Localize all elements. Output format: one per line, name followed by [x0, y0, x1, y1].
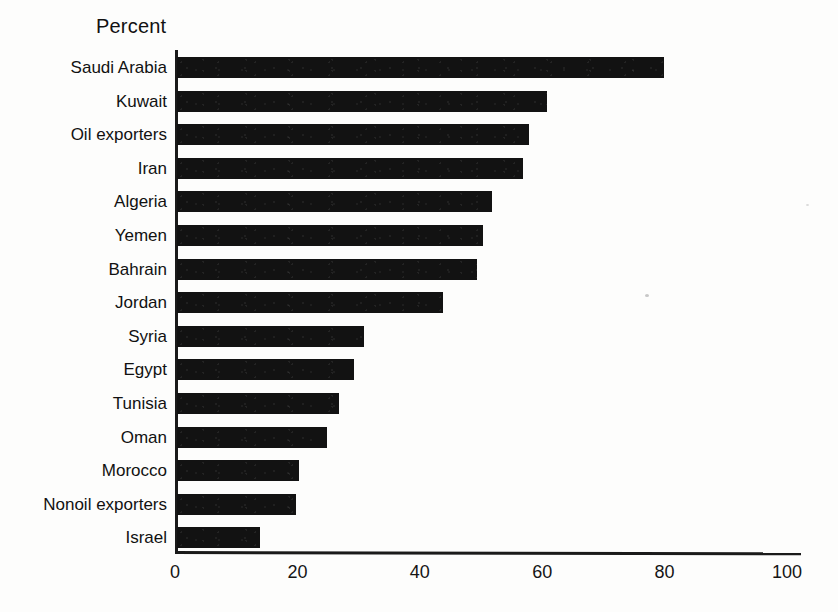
- category-label: Yemen: [115, 225, 167, 246]
- category-label: Oil exporters: [71, 124, 167, 145]
- category-label: Syria: [128, 326, 167, 347]
- x-tick-label-80: 80: [635, 561, 695, 583]
- chart-page: Percent Saudi ArabiaKuwaitOil exportersI…: [0, 0, 838, 612]
- bar-fill: [177, 527, 260, 548]
- bar-tunisia: [177, 393, 339, 414]
- bar-fill: [177, 494, 296, 515]
- bar-fill: [177, 326, 364, 347]
- bar-kuwait: [177, 91, 547, 112]
- bar-bahrain: [177, 259, 477, 280]
- bar-algeria: [177, 191, 492, 212]
- bar-yemen: [177, 225, 483, 246]
- bar-fill: [177, 191, 492, 212]
- bar-israel: [177, 527, 260, 548]
- bar-fill: [177, 259, 477, 280]
- scan-artifact-speck: [645, 294, 649, 297]
- bar-morocco: [177, 460, 299, 481]
- bar-fill: [177, 460, 299, 481]
- plot-area: [175, 50, 801, 555]
- bar-fill: [177, 91, 547, 112]
- category-label: Saudi Arabia: [71, 57, 167, 78]
- x-axis-line: [175, 551, 801, 555]
- x-tick-label-60: 60: [512, 561, 572, 583]
- bar-fill: [177, 158, 523, 179]
- category-label: Bahrain: [108, 259, 167, 280]
- bar-fill: [177, 225, 483, 246]
- x-tick-label-100: 100: [757, 561, 817, 583]
- category-label: Nonoil exporters: [43, 494, 167, 515]
- bar-saudi-arabia: [177, 57, 664, 78]
- bar-jordan: [177, 292, 443, 313]
- bar-fill: [177, 57, 664, 78]
- x-tick-label-40: 40: [390, 561, 450, 583]
- category-label: Israel: [125, 527, 167, 548]
- bar-fill: [177, 359, 354, 380]
- category-label: Tunisia: [113, 393, 167, 414]
- x-tick-label-20: 20: [267, 561, 327, 583]
- scan-artifact-speck: [806, 204, 809, 206]
- bar-syria: [177, 326, 364, 347]
- category-label: Egypt: [124, 359, 167, 380]
- x-tick-label-0: 0: [145, 561, 205, 583]
- bar-fill: [177, 124, 529, 145]
- bar-fill: [177, 292, 443, 313]
- category-label: Jordan: [115, 292, 167, 313]
- bar-egypt: [177, 359, 354, 380]
- bar-fill: [177, 427, 327, 448]
- category-label: Algeria: [114, 191, 167, 212]
- category-label: Morocco: [102, 460, 167, 481]
- category-label: Oman: [121, 427, 167, 448]
- bar-fill: [177, 393, 339, 414]
- bar-iran: [177, 158, 523, 179]
- chart-title: Percent: [96, 15, 166, 38]
- bar-nonoil-exporters: [177, 494, 296, 515]
- category-label: Iran: [138, 158, 167, 179]
- category-label: Kuwait: [116, 91, 167, 112]
- bar-oman: [177, 427, 327, 448]
- bar-oil-exporters: [177, 124, 529, 145]
